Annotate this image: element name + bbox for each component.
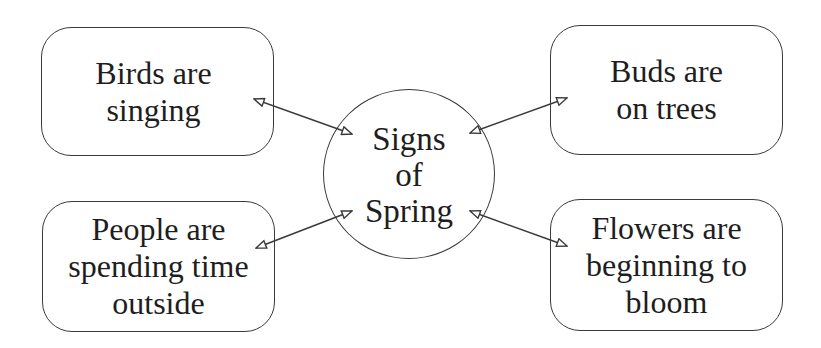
node-label: Buds are on trees — [610, 53, 723, 127]
node-buds-on-trees: Buds are on trees — [550, 25, 783, 155]
node-label: People are spending time outside — [68, 211, 248, 322]
node-label: Flowers are beginning to bloom — [586, 210, 747, 321]
center-label: Signs of Spring — [365, 121, 453, 229]
node-birds-singing: Birds are singing — [41, 27, 274, 156]
node-label: Birds are singing — [95, 55, 219, 129]
signs-of-spring-diagram: Birds are singing Buds are on trees Peop… — [0, 0, 821, 348]
center-node-signs-of-spring: Signs of Spring — [323, 89, 495, 259]
node-people-outside: People are spending time outside — [42, 201, 275, 332]
node-flowers-blooming: Flowers are beginning to bloom — [550, 199, 783, 331]
